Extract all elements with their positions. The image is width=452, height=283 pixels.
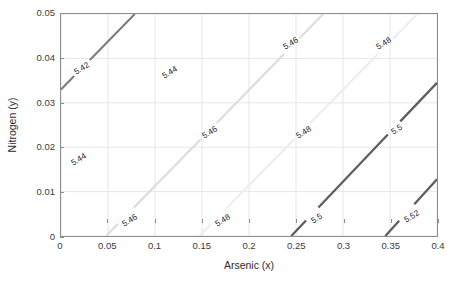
contour-line	[61, 76, 74, 89]
x-tick-mark	[438, 219, 439, 223]
x-tick-label: 0.1	[148, 241, 161, 251]
x-tick-mark	[202, 219, 203, 223]
x-tick-mark	[60, 219, 61, 223]
contour-line	[199, 224, 211, 236]
y-tick-mark	[60, 13, 64, 14]
x-axis-title: Arsenic (x)	[224, 259, 274, 271]
x-tick-label: 0.3	[337, 241, 350, 251]
x-tick-label: 0.2	[242, 241, 255, 251]
y-tick-mark	[60, 147, 64, 148]
contour-line	[299, 14, 323, 38]
y-tick-label: 0.03	[37, 98, 56, 108]
x-tick-mark	[296, 219, 297, 223]
x-tick-label: 0.15	[193, 241, 212, 251]
y-tick-mark	[60, 58, 64, 59]
contour-line	[217, 54, 284, 123]
y-axis-title: Nitrogen (y)	[6, 98, 18, 153]
y-tick-label: 0.02	[37, 143, 56, 153]
contour-plot-figure: 00.050.10.150.20.250.30.350.4 00.010.020…	[0, 0, 452, 283]
contour-line	[318, 135, 387, 208]
x-tick-mark	[155, 219, 156, 223]
x-tick-label: 0.35	[382, 241, 401, 251]
x-tick-mark	[107, 219, 108, 223]
x-tick-label: 0.05	[98, 241, 117, 251]
y-tick-label: 0.05	[37, 8, 56, 18]
contour-line	[291, 221, 306, 236]
y-tick-label: 0	[50, 232, 55, 242]
contour-line	[400, 83, 437, 122]
contour-line	[310, 55, 377, 123]
contour-line	[385, 221, 399, 236]
y-tick-mark	[60, 192, 64, 193]
x-tick-mark	[344, 219, 345, 223]
contour-line	[227, 139, 294, 208]
y-tick-mark	[60, 237, 64, 238]
x-tick-mark	[391, 219, 392, 223]
y-tick-mark	[60, 103, 64, 104]
x-tick-mark	[249, 219, 250, 223]
contour-line	[134, 139, 201, 208]
y-tick-label: 0.04	[37, 53, 56, 63]
x-tick-label: 0.4	[431, 241, 444, 251]
x-tick-label: 0	[57, 241, 62, 251]
contour-line	[393, 14, 417, 39]
contour-line	[90, 14, 135, 60]
x-tick-label: 0.25	[287, 241, 306, 251]
y-tick-label: 0.01	[37, 187, 56, 197]
